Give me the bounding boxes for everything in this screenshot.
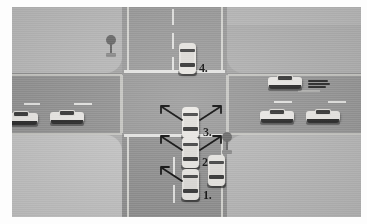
- car-underside: [307, 119, 339, 123]
- car-windshield: [183, 189, 198, 193]
- turn-arrow-left-car-2: [158, 134, 184, 152]
- car-rear-window: [180, 49, 195, 52]
- car-underside: [269, 85, 301, 89]
- shoulder-line-ew-south-right: [228, 133, 361, 135]
- turn-arrow-right-car-2: [198, 134, 224, 152]
- car-roof: [210, 163, 223, 175]
- stop-bar-north: [124, 70, 225, 73]
- center-dash-ns-3: [172, 57, 174, 70]
- car-roof: [184, 145, 197, 157]
- speeding-car-east: [268, 75, 302, 90]
- stop-bar-west: [120, 75, 123, 133]
- turn-arrow-right-car-3: [198, 104, 224, 122]
- tree-northwest: [104, 35, 118, 57]
- car-rear-window: [209, 161, 224, 164]
- corner-lot-southwest: [12, 135, 122, 217]
- numbered-car-4: [179, 43, 196, 74]
- callout-1: 1.: [203, 189, 212, 201]
- edge-line-ns-east-top: [221, 7, 223, 71]
- edge-line-ns-west-top: [127, 7, 129, 71]
- numbered-car-3: [182, 107, 199, 138]
- car-windshield: [180, 63, 195, 67]
- car-window: [278, 76, 292, 80]
- car-rear-window: [183, 175, 198, 178]
- car-windshield: [183, 127, 198, 131]
- car-window: [270, 110, 284, 114]
- corner-lot-southeast: [227, 135, 361, 217]
- car-underside: [261, 119, 293, 123]
- adjacent-car-right-of-car-1: [208, 155, 225, 186]
- numbered-car-2: [182, 137, 199, 168]
- center-dash-ew-right-1: [274, 101, 292, 103]
- car-window: [316, 110, 330, 114]
- parked-car-east-inner: [260, 109, 294, 124]
- stop-bar-east: [226, 75, 229, 133]
- car-rear-window: [183, 143, 198, 146]
- parked-car-west-outer: [12, 111, 38, 126]
- center-dash-ew-left-2: [74, 103, 92, 105]
- car-window: [14, 112, 28, 116]
- car-underside: [51, 120, 83, 124]
- car-windshield: [183, 157, 198, 161]
- parked-car-west-inner: [50, 110, 84, 125]
- car-rear-window: [183, 113, 198, 116]
- car-roof: [184, 177, 197, 189]
- turn-arrow-left-car-1: [158, 165, 184, 183]
- center-dash-ns-2: [172, 33, 174, 49]
- edge-line-ns-west-bottom: [127, 137, 129, 217]
- diorama-plate: 4. 3.: [12, 7, 361, 217]
- corner-lot-northeast: [227, 7, 361, 73]
- callout-4: 4.: [199, 62, 208, 74]
- shoulder-line-ew-north-left: [12, 74, 122, 76]
- tree-base: [106, 53, 116, 57]
- car-windshield: [209, 175, 224, 179]
- turn-arrow-left-car-3: [158, 104, 184, 122]
- center-dash-ns-5: [173, 185, 175, 203]
- shoulder-line-ew-south-left: [12, 133, 122, 135]
- car-roof: [181, 51, 194, 63]
- numbered-car-1: [182, 169, 199, 200]
- car-roof: [184, 115, 197, 127]
- motion-lines-icon: [308, 79, 330, 89]
- car-window: [60, 111, 74, 115]
- center-dash-ew-right-2: [328, 101, 346, 103]
- intersection-scene: 4. 3.: [0, 0, 367, 224]
- center-dash-ew-left-1: [24, 103, 40, 105]
- center-dash-ns-1: [172, 9, 174, 25]
- car-underside: [12, 121, 37, 125]
- parked-car-east-outer: [306, 109, 340, 124]
